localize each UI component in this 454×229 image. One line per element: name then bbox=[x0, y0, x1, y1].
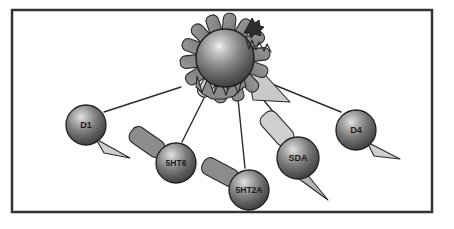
receptor-node-d1-sphere[interactable] bbox=[66, 105, 106, 145]
diagram-canvas: D15HT65HT2ASDAD4 bbox=[0, 0, 454, 229]
receptor-node-sda-sphere[interactable] bbox=[277, 137, 319, 179]
receptor-diagram-figure: D15HT65HT2ASDAD4 bbox=[0, 0, 454, 229]
receptor-node-d4-sphere[interactable] bbox=[336, 110, 376, 150]
central-receptor-sphere[interactable] bbox=[196, 29, 254, 87]
receptor-node-5ht2a-sphere[interactable] bbox=[229, 170, 269, 210]
receptor-node-5ht6-sphere[interactable] bbox=[156, 143, 196, 183]
